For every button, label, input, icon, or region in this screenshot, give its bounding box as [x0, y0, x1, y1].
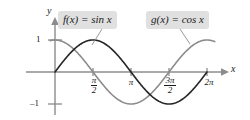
fraction-pi-over-2: π 2	[91, 76, 98, 96]
x-tick-label-pi-over-2: π 2	[85, 76, 103, 96]
pi-glyph: π	[129, 77, 134, 87]
x-tick-label-pi: π	[124, 78, 138, 87]
y-tick-label-one: 1	[36, 35, 41, 44]
fraction-denominator: 2	[164, 86, 175, 95]
f-callout-leader-line	[92, 29, 102, 45]
x-axis-arrowhead	[221, 68, 229, 76]
x-tick-label-2pi: 2π	[200, 78, 218, 87]
f-function-callout: f(x) = sin x	[58, 11, 117, 29]
x-axis-label: x	[231, 64, 235, 74]
two-pi-glyph: 2π	[204, 77, 213, 87]
y-tick-label-negative-one: –1	[30, 99, 39, 108]
fraction-denominator: 2	[91, 86, 98, 95]
g-callout-leader-line	[180, 29, 190, 44]
g-function-callout: g(x) = cos x	[146, 11, 209, 29]
y-axis-label: y	[47, 6, 51, 16]
trig-function-graph-figure: y x 1 –1 π 2 π 3π 2 2π f(x) = sin x g(x)…	[0, 0, 250, 120]
fraction-3pi-over-2: 3π 2	[164, 76, 175, 96]
x-tick-label-3pi-over-2: 3π 2	[159, 76, 181, 96]
